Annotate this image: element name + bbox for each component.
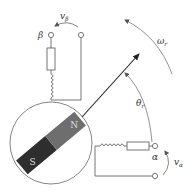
beta-terminal-right	[78, 32, 83, 37]
alpha-terminal-top	[152, 143, 157, 148]
beta-terminal-left	[48, 32, 53, 37]
north-label: N	[70, 120, 78, 130]
rotor-axis-arrow	[82, 54, 139, 117]
beta-winding	[47, 32, 84, 100]
v-alpha-arrow	[163, 151, 169, 175]
beta-resistor	[47, 48, 55, 70]
south-label: S	[30, 157, 36, 167]
v-beta-label: vβ	[60, 11, 69, 23]
alpha-terminal-bottom	[152, 173, 157, 178]
motor-diagram: vβ β α vα S N θr ωr	[0, 0, 195, 193]
beta-label: β	[37, 30, 43, 40]
alpha-label: α	[152, 152, 158, 162]
v-alpha-label: vα	[174, 157, 183, 168]
omega-label: ωr	[157, 36, 168, 47]
diagram-svg: vβ β α vα S N θr ωr	[0, 0, 195, 193]
alpha-winding	[95, 142, 158, 179]
alpha-resistor	[127, 142, 149, 150]
alpha-inductor	[100, 144, 124, 146]
theta-label: θr	[136, 98, 145, 109]
v-beta-arrow	[55, 23, 78, 27]
beta-inductor	[51, 74, 53, 98]
omega-arc	[125, 20, 172, 74]
